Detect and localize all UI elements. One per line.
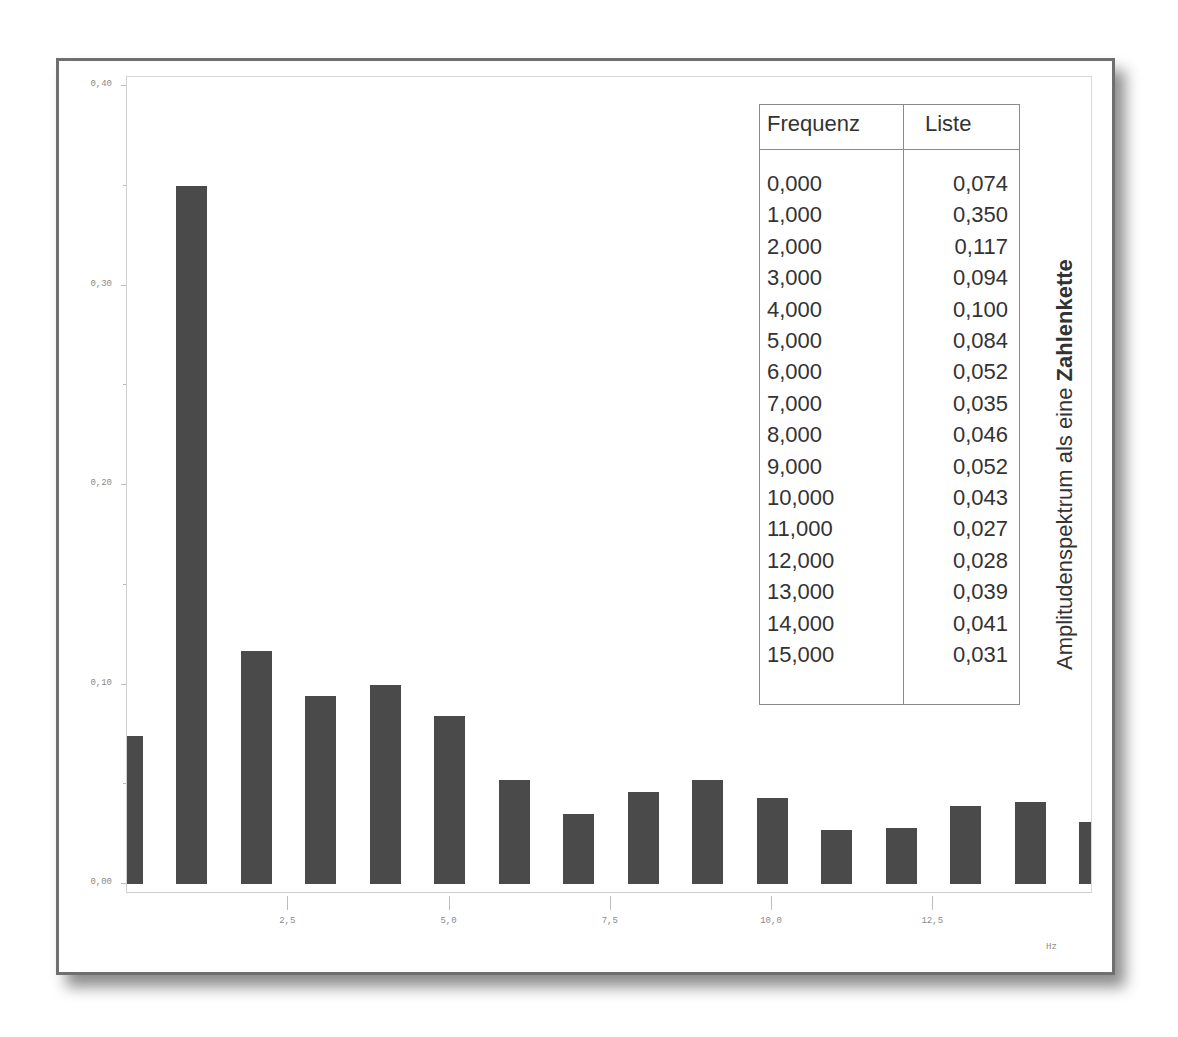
y-tick-label: 0,40 <box>72 79 112 89</box>
y-tick-label: 0,00 <box>72 877 112 887</box>
table-header-frequenz: Frequenz <box>767 111 860 137</box>
table-cell-liste: 0,094 <box>953 262 1008 293</box>
bar <box>126 736 143 884</box>
y-tick <box>121 684 126 685</box>
table-cell-liste: 0,041 <box>953 608 1008 639</box>
x-tick <box>610 896 611 910</box>
y-minor-tick <box>123 384 126 385</box>
bar <box>305 696 336 884</box>
table-cell-liste: 0,035 <box>953 388 1008 419</box>
y-minor-tick <box>123 185 126 186</box>
x-tick-label: 7,5 <box>590 916 630 926</box>
side-title-bold: Zahlenkette <box>1052 259 1077 381</box>
table-cell-liste: 0,350 <box>953 199 1008 230</box>
table-cell-frequenz: 12,000 <box>767 545 834 576</box>
side-title-normal: Amplitudenspektrum als eine <box>1052 381 1077 670</box>
y-tick <box>121 285 126 286</box>
table-cell-liste: 0,084 <box>953 325 1008 356</box>
table-cell-liste: 0,117 <box>955 231 1008 262</box>
bar <box>821 830 852 884</box>
x-axis-unit-label: Hz <box>1046 942 1057 952</box>
table-cell-liste: 0,074 <box>953 168 1008 199</box>
y-tick <box>121 883 126 884</box>
x-tick <box>449 896 450 910</box>
bar <box>692 780 723 884</box>
bar <box>950 806 981 884</box>
y-minor-tick <box>123 584 126 585</box>
table-cell-liste: 0,052 <box>953 356 1008 387</box>
table-cell-frequenz: 4,000 <box>767 294 822 325</box>
table-cell-liste: 0,039 <box>953 576 1008 607</box>
x-tick-label: 10,0 <box>751 916 791 926</box>
table-cell-liste: 0,046 <box>953 419 1008 450</box>
table-cell-liste: 0,052 <box>953 451 1008 482</box>
table-header-liste: Liste <box>925 111 971 137</box>
bar <box>499 780 530 884</box>
x-tick <box>932 896 933 910</box>
table-cell-frequenz: 9,000 <box>767 451 822 482</box>
bar <box>886 828 917 884</box>
table-column-divider <box>903 105 904 704</box>
table-cell-liste: 0,043 <box>953 482 1008 513</box>
bar <box>434 716 465 884</box>
bar <box>176 186 207 884</box>
bar <box>1079 822 1092 884</box>
x-tick-label: 2,5 <box>267 916 307 926</box>
table-cell-frequenz: 7,000 <box>767 388 822 419</box>
table-header-divider <box>760 149 1019 150</box>
table-cell-frequenz: 8,000 <box>767 419 822 450</box>
table-cell-frequenz: 0,000 <box>767 168 822 199</box>
x-tick <box>771 896 772 910</box>
table-cell-frequenz: 10,000 <box>767 482 834 513</box>
y-tick-label: 0,20 <box>72 478 112 488</box>
bar <box>628 792 659 884</box>
bar <box>370 685 401 885</box>
bar <box>563 814 594 884</box>
x-tick-label: 5,0 <box>429 916 469 926</box>
table-cell-frequenz: 3,000 <box>767 262 822 293</box>
table-cell-frequenz: 6,000 <box>767 356 822 387</box>
table-cell-liste: 0,100 <box>953 294 1008 325</box>
bar <box>241 651 272 884</box>
y-tick-label: 0,10 <box>72 678 112 688</box>
y-tick-label: 0,30 <box>72 279 112 289</box>
bar <box>757 798 788 884</box>
table-cell-frequenz: 2,000 <box>767 231 822 262</box>
table-cell-frequenz: 5,000 <box>767 325 822 356</box>
x-tick-label: 12,5 <box>912 916 952 926</box>
y-tick <box>121 85 126 86</box>
y-minor-tick <box>123 783 126 784</box>
table-cell-frequenz: 13,000 <box>767 576 834 607</box>
table-cell-frequenz: 15,000 <box>767 639 834 670</box>
data-table: Frequenz Liste 0,0000,0741,0000,3502,000… <box>759 104 1020 705</box>
table-cell-liste: 0,028 <box>953 545 1008 576</box>
table-cell-frequenz: 14,000 <box>767 608 834 639</box>
table-cell-frequenz: 11,000 <box>767 513 833 544</box>
table-cell-liste: 0,031 <box>953 639 1008 670</box>
table-cell-liste: 0,027 <box>953 513 1008 544</box>
x-tick <box>287 896 288 910</box>
table-cell-frequenz: 1,000 <box>767 199 822 230</box>
side-title: Amplitudenspektrum als eine Zahlenkette <box>1052 259 1078 670</box>
bar <box>1015 802 1046 884</box>
y-tick <box>121 484 126 485</box>
